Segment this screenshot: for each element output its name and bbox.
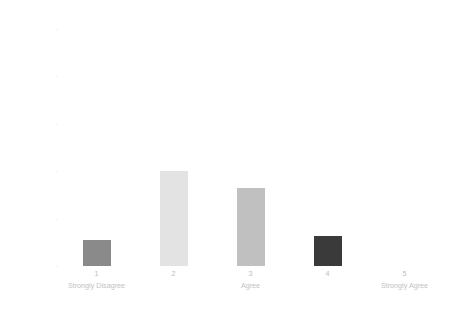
bar-category-1 xyxy=(83,240,111,266)
bar-category-4 xyxy=(314,236,342,266)
x-category-3-sublabel: Agree xyxy=(212,280,289,292)
x-category-3: 3 Agree xyxy=(212,268,289,292)
x-category-2-number: 2 xyxy=(135,268,212,279)
x-category-1-sublabel: Strongly Disagree xyxy=(58,280,135,292)
y-tick-mark-80 xyxy=(56,76,58,77)
x-axis: 1 Strongly Disagree 2 3 Agree 4 5 Strong… xyxy=(58,268,443,308)
y-tick-mark-40 xyxy=(56,171,58,172)
bar-category-3 xyxy=(237,188,265,266)
x-category-1-number: 1 xyxy=(58,268,135,279)
y-tick-mark-0 xyxy=(56,266,58,267)
y-tick-mark-20 xyxy=(56,219,58,220)
x-category-3-number: 3 xyxy=(212,268,289,279)
bar-chart: 100.00% 80.00% 60.00% 40.00% 20.00% 0.00… xyxy=(0,0,449,317)
plot-area: 100.00% 80.00% 60.00% 40.00% 20.00% 0.00… xyxy=(58,29,443,266)
y-tick-mark-100 xyxy=(56,29,58,30)
y-tick-mark-60 xyxy=(56,124,58,125)
bar-category-2 xyxy=(160,171,188,266)
x-category-1: 1 Strongly Disagree xyxy=(58,268,135,292)
x-category-4: 4 xyxy=(289,268,366,280)
x-category-5-number: 5 xyxy=(366,268,443,279)
x-category-2: 2 xyxy=(135,268,212,280)
x-category-5-sublabel: Strongly Agree xyxy=(366,280,443,292)
x-category-4-number: 4 xyxy=(289,268,366,279)
x-category-5: 5 Strongly Agree xyxy=(366,268,443,292)
